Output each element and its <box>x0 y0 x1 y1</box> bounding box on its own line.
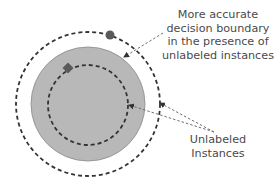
boundary-annotation-line-2: decision boundary <box>159 22 277 36</box>
unlabeled-label-line-1: Unlabeled <box>184 133 252 147</box>
boundary-annotation-line-4: unlabeled instances <box>159 49 277 63</box>
boundary-note-arrow <box>124 33 163 57</box>
boundary-annotation-label: More accurate decision boundary in the p… <box>159 8 277 62</box>
unlabeled-instance-marker-circle <box>106 31 115 40</box>
unlabeled-label-line-2: Instances <box>184 147 252 161</box>
boundary-annotation-line-3: in the presence of <box>159 35 277 49</box>
unlabeled-instances-label: Unlabeled Instances <box>184 133 252 160</box>
unlabeled-note-arrow-outer <box>160 103 214 132</box>
boundary-annotation-line-1: More accurate <box>159 8 277 22</box>
